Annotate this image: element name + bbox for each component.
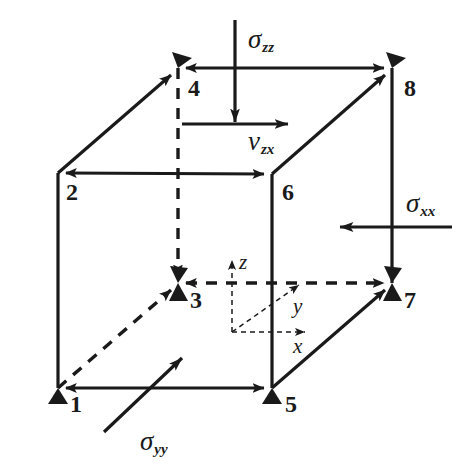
- node-label-8: 8: [404, 76, 416, 100]
- edge-5-7: [272, 290, 385, 388]
- v-zx-base: v: [248, 126, 260, 156]
- node-marker-8-up: [386, 52, 406, 68]
- edge-2-6: [66, 173, 264, 174]
- node-marker-3-up: [170, 266, 188, 283]
- sigma-yy-base: σ: [140, 426, 153, 456]
- edge-2-4: [58, 75, 171, 173]
- node-label-3: 3: [190, 288, 202, 312]
- sigma-xx-subscript: xx: [420, 203, 435, 219]
- axis-label-y: y: [293, 296, 302, 317]
- load-arrows-layer: [104, 20, 452, 432]
- sigma-zz-base: σ: [248, 24, 261, 54]
- sigma-zz-subscript: zz: [262, 39, 274, 55]
- stress-element-diagram: 1 2 3 4 5 6 7 8 σzz vzx σxx σyy z y x: [0, 0, 465, 469]
- node-marker-5: [262, 388, 282, 404]
- node-marker-3: [169, 283, 188, 301]
- sigma-yy-subscript: yy: [154, 441, 167, 457]
- sigma-xx-label: σxx: [406, 190, 435, 219]
- node-label-5: 5: [285, 392, 297, 416]
- sigma-zz-label: σzz: [248, 26, 274, 55]
- node-label-6: 6: [282, 180, 294, 204]
- node-label-4: 4: [188, 76, 200, 100]
- node-marker-7: [383, 283, 402, 301]
- v-zx-label: vzx: [248, 128, 274, 157]
- node-label-7: 7: [404, 288, 416, 312]
- sigma-xx-base: σ: [406, 188, 419, 218]
- axis-y-line: [232, 285, 299, 332]
- sigma-yy-arrow: [104, 358, 182, 432]
- edge-1-3: [58, 290, 171, 388]
- node-marker-1: [48, 388, 68, 404]
- node-label-2: 2: [66, 180, 78, 204]
- v-zx-subscript: zx: [261, 141, 274, 157]
- node-marker-7-up: [384, 266, 402, 283]
- sigma-yy-label: σyy: [140, 428, 168, 457]
- node-label-1: 1: [70, 392, 82, 416]
- node-marker-4-up: [172, 52, 192, 68]
- axis-label-z: z: [239, 252, 247, 273]
- edge-6-8: [272, 75, 385, 174]
- axis-label-x: x: [293, 336, 302, 357]
